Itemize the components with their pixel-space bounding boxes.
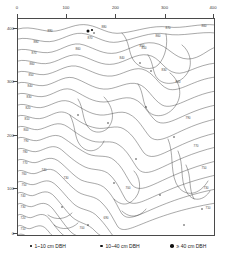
legend: 1~10 cm DBH 10~40 cm DBH ≥ 40 cm DBH — [0, 240, 233, 252]
y-tick-label: 0 — [3, 230, 14, 235]
x-tick — [165, 14, 166, 18]
x-tick — [17, 14, 18, 18]
svg-text:790: 790 — [185, 116, 190, 120]
contour-map-figure: 890 880 870 860 880 870 860 870 860 850 … — [0, 0, 233, 256]
x-tick-label: 300 — [161, 5, 168, 10]
svg-text:770: 770 — [193, 144, 198, 148]
svg-text:760: 760 — [21, 172, 26, 176]
x-tick — [213, 14, 214, 18]
legend-item-large: ≥ 40 cm DBH — [170, 243, 206, 250]
large-dot-icon — [170, 244, 174, 248]
svg-text:700: 700 — [79, 226, 84, 230]
medium-dot-icon — [100, 245, 103, 248]
legend-item-small: 1~10 cm DBH — [30, 243, 66, 250]
svg-text:750: 750 — [21, 183, 26, 187]
x-tick-label: 100 — [62, 5, 69, 10]
svg-text:850: 850 — [141, 46, 146, 50]
plot-area: 890 880 870 860 880 870 860 870 860 850 … — [17, 18, 215, 236]
svg-text:710: 710 — [20, 227, 25, 231]
svg-text:840: 840 — [27, 84, 32, 88]
svg-text:750: 750 — [201, 166, 206, 170]
legend-label: ≥ 40 cm DBH — [177, 243, 207, 250]
svg-text:810: 810 — [24, 117, 29, 121]
x-tick-label: 400 — [210, 5, 217, 10]
svg-text:740: 740 — [41, 168, 46, 172]
svg-text:870: 870 — [165, 26, 170, 30]
svg-text:730: 730 — [63, 176, 68, 180]
svg-text:860: 860 — [155, 34, 160, 38]
legend-label: 1~10 cm DBH — [35, 243, 66, 250]
legend-item-medium: 10~40 cm DBH — [100, 243, 140, 250]
contour-lines-svg: 890 880 870 860 880 870 860 870 860 850 … — [18, 19, 215, 236]
svg-text:880: 880 — [33, 40, 38, 44]
x-tick-label: 0 — [16, 5, 18, 10]
svg-text:850: 850 — [28, 73, 33, 77]
x-tick — [115, 14, 116, 18]
svg-text:690: 690 — [103, 216, 108, 220]
svg-text:790: 790 — [23, 139, 28, 143]
svg-text:860: 860 — [29, 62, 34, 66]
svg-text:870: 870 — [31, 51, 36, 55]
y-tick-label: 100 — [3, 186, 14, 191]
svg-text:820: 820 — [175, 80, 180, 84]
svg-text:840: 840 — [119, 56, 124, 60]
svg-text:830: 830 — [26, 95, 31, 99]
svg-text:880: 880 — [101, 25, 106, 29]
svg-text:730: 730 — [20, 205, 25, 209]
svg-text:780: 780 — [22, 150, 27, 154]
svg-text:870: 870 — [87, 36, 92, 40]
svg-text:820: 820 — [25, 106, 30, 110]
svg-text:860: 860 — [75, 47, 80, 51]
svg-text:830: 830 — [161, 68, 166, 72]
small-dot-icon — [30, 245, 32, 247]
svg-text:740: 740 — [20, 194, 25, 198]
legend-label: 10~40 cm DBH — [106, 243, 140, 250]
svg-text:800: 800 — [23, 128, 28, 132]
svg-text:710: 710 — [205, 206, 210, 210]
svg-text:770: 770 — [22, 161, 27, 165]
svg-text:720: 720 — [20, 216, 25, 220]
svg-text:730: 730 — [203, 186, 208, 190]
svg-text:700: 700 — [125, 186, 130, 190]
y-tick-label: 300 — [3, 79, 14, 84]
y-tick-label: 200 — [3, 132, 14, 137]
svg-text:860: 860 — [201, 24, 206, 28]
x-tick — [66, 14, 67, 18]
x-tick-label: 200 — [112, 5, 119, 10]
svg-text:890: 890 — [47, 29, 52, 33]
y-tick-label: 400 — [3, 25, 14, 30]
